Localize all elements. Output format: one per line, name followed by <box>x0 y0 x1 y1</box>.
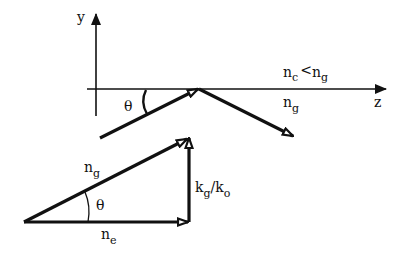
svg-text:ng: ng <box>283 94 299 115</box>
svg-text:kg/ko: kg/ko <box>195 179 231 200</box>
angle-arc-top <box>143 90 147 114</box>
reflected-ray <box>199 89 293 136</box>
triangle-hypotenuse-vector <box>24 139 187 222</box>
svg-text:ng: ng <box>84 159 100 180</box>
theta-label-triangle: θ <box>96 197 104 213</box>
cover-index-label: nc<ng <box>283 62 328 84</box>
svg-text:nc<ng: nc<ng <box>283 62 328 84</box>
hypotenuse-label: ng <box>84 159 100 180</box>
waveguide-diagram: y z nc<ng ng θ ng θ ne kg/ko <box>0 0 403 261</box>
angle-arc-triangle <box>85 192 89 222</box>
y-axis-label: y <box>76 9 85 25</box>
base-label: ne <box>101 226 117 247</box>
guide-index-label: ng <box>283 94 299 115</box>
theta-label-top: θ <box>124 98 132 114</box>
vertical-label: kg/ko <box>195 179 231 200</box>
incident-ray <box>100 89 198 138</box>
svg-text:ne: ne <box>101 226 117 247</box>
z-axis-label: z <box>374 94 381 110</box>
